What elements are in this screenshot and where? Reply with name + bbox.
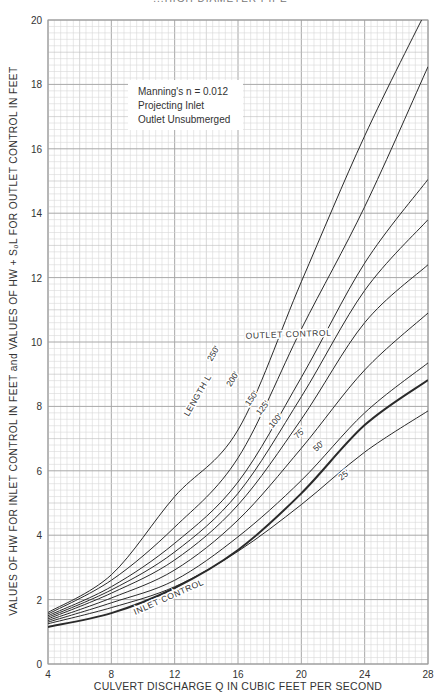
y-tick-label: 12 [31,273,43,284]
legend-outlet-condition: Outlet Unsubmerged [138,113,243,127]
y-tick-label: 10 [31,337,43,348]
curve-label: LENGTH L [181,373,213,418]
curve-label: OUTLET CONTROL [246,328,332,341]
legend-box: Manning's n = 0.012 Projecting Inlet Out… [128,80,243,130]
chart: ...HIGH DIAMETER PIPE 481216202428024681… [0,0,441,697]
y-tick-label: 2 [36,595,42,606]
x-axis-title: CULVERT DISCHARGE Q IN CUBIC FEET PER SE… [48,680,428,692]
y-tick-label: 8 [36,401,42,412]
curve-label: 100' [266,411,284,430]
x-tick-label: 16 [232,669,244,680]
y-tick-label: 16 [31,144,43,155]
legend-manning-n: Manning's n = 0.012 [138,85,243,99]
y-tick-label: 18 [31,79,43,90]
x-tick-label: 24 [359,669,371,680]
curve-label: 125' [254,398,272,417]
y-tick-label: 4 [36,530,42,541]
y-axis-title: VALUES OF HW FOR INLET CONTROL IN FEET a… [8,66,19,615]
x-tick-label: 8 [109,669,115,680]
x-tick-label: 28 [422,669,434,680]
y-tick-label: 6 [36,466,42,477]
y-tick-label: 14 [31,208,43,219]
y-tick-label: 20 [31,15,43,26]
x-tick-label: 12 [169,669,181,680]
curve-label: 25' [336,467,351,482]
legend-inlet-type: Projecting Inlet [138,99,243,113]
y-tick-label: 0 [36,659,42,670]
x-tick-label: 4 [45,669,51,680]
x-tick-label: 20 [296,669,308,680]
